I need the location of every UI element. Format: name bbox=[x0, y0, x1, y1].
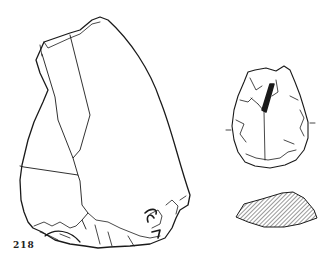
small-tool-drawing bbox=[226, 66, 315, 168]
top-edge-detail bbox=[40, 22, 100, 56]
cross-section-shape bbox=[236, 192, 317, 227]
flake-scar-ridge-1 bbox=[42, 35, 90, 158]
lithic-illustration-figure: 218 bbox=[0, 0, 329, 273]
large-flake-outline bbox=[20, 17, 190, 248]
flake-scar-ridge-2 bbox=[20, 166, 88, 229]
drawings-canvas bbox=[0, 0, 329, 273]
small-tool-outline bbox=[232, 66, 308, 168]
cross-section bbox=[236, 192, 317, 227]
small-tool-dark-scar bbox=[262, 84, 274, 112]
large-flake-drawing bbox=[20, 17, 190, 248]
bulb-scar bbox=[145, 209, 160, 238]
figure-number-label: 218 bbox=[13, 240, 35, 250]
flake-scar-ridge-3 bbox=[73, 158, 78, 175]
